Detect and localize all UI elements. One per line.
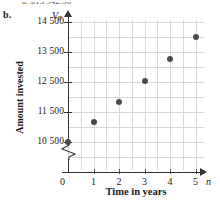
y-axis-title: Amount invested <box>14 43 25 153</box>
y-axis-arrow-icon <box>64 10 72 17</box>
y-axis-variable-label: Vn <box>52 10 62 22</box>
gridline-vertical <box>196 20 197 170</box>
data-point <box>167 56 173 62</box>
gridline-horizontal <box>68 142 204 143</box>
y-axis-line <box>68 16 69 142</box>
origin-label: 0 <box>60 176 65 187</box>
data-point <box>65 139 71 145</box>
gridline-vertical <box>183 20 184 170</box>
gridline-vertical <box>119 20 120 170</box>
chart-figure: a. $13 942.56 b. 10 50011 50012 50013 50… <box>0 0 220 201</box>
gridline-horizontal <box>68 157 204 158</box>
y-axis-lower-line <box>68 159 69 173</box>
data-point <box>193 34 199 40</box>
gridline-horizontal <box>68 112 204 113</box>
gridline-vertical <box>132 20 133 170</box>
x-axis-line <box>62 172 202 173</box>
x-axis-arrow-icon <box>200 168 207 176</box>
gridline-vertical <box>106 20 107 170</box>
gridline-vertical <box>170 20 171 170</box>
gridline-horizontal <box>68 127 204 128</box>
data-point <box>91 119 97 125</box>
gridline-horizontal <box>68 97 204 98</box>
y-axis-ticks: 10 50011 50012 50013 50014 500 <box>0 0 64 201</box>
gridline-vertical <box>157 20 158 170</box>
gridline-vertical <box>94 20 95 170</box>
y-tick-label: 13 500 <box>37 46 64 56</box>
y-tick-label: 11 500 <box>38 106 64 116</box>
y-axis-variable-subscript: n <box>58 13 62 22</box>
x-axis-variable-label: n <box>206 176 211 187</box>
gridline-horizontal <box>68 52 204 53</box>
y-tick-label: 12 500 <box>37 76 64 86</box>
gridline-vertical <box>81 20 82 170</box>
gridline-horizontal <box>68 67 204 68</box>
gridline-vertical <box>145 20 146 170</box>
plot-area <box>68 20 204 170</box>
data-point <box>142 78 148 84</box>
gridline-horizontal <box>68 22 204 23</box>
x-axis-title: Time in years <box>68 186 204 197</box>
gridline-horizontal <box>68 37 204 38</box>
data-point <box>116 99 122 105</box>
gridline-horizontal <box>68 82 204 83</box>
